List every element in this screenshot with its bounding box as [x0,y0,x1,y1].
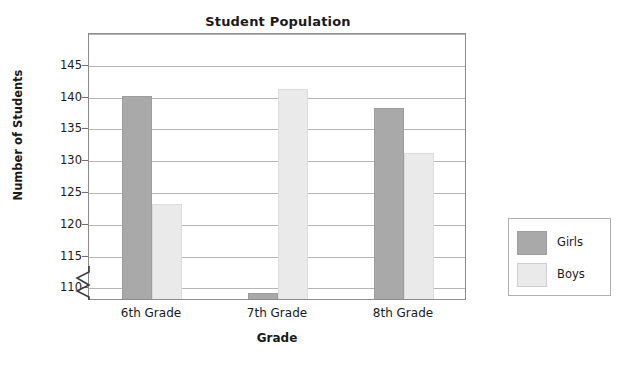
legend-item-girls[interactable]: Girls [517,229,609,257]
bar-boys-6th-grade [152,204,182,299]
gridline [89,66,465,67]
gridline [89,34,465,35]
y-axis-tick-label: 130 [48,154,82,166]
y-axis-tick-label: 115 [48,250,82,262]
y-axis-tick-mark [82,224,88,225]
bar-chart: Student Population 110115120125130135140… [0,0,632,365]
plot-area [88,33,466,300]
y-axis-tick-mark [82,256,88,257]
y-axis-tick-label: 125 [48,186,82,198]
legend-item-boys[interactable]: Boys [517,261,609,289]
bar-girls-6th-grade [122,96,152,299]
y-axis-tick-mark [82,192,88,193]
y-axis-tick-label: 135 [48,122,82,134]
legend-label-girls: Girls [557,235,583,249]
legend: GirlsBoys [508,218,611,296]
legend-label-boys: Boys [557,267,585,281]
y-axis-tick-label: 120 [48,218,82,230]
bar-boys-8th-grade [404,153,434,299]
y-axis-tick-mark [82,97,88,98]
x-axis-tick-label: 8th Grade [343,306,463,320]
x-axis-tick-label: 6th Grade [91,306,211,320]
bar-girls-8th-grade [374,108,404,299]
y-axis-title: Number of Students [11,55,25,215]
chart-title: Student Population [88,14,468,29]
y-axis-tick-mark [82,128,88,129]
y-axis-tick-labels: 110115120125130135140145 [44,33,82,300]
axis-break-icon [72,266,94,300]
y-axis-tick-mark [82,160,88,161]
x-axis-tick-label: 7th Grade [217,306,337,320]
y-axis-tick-label: 145 [48,59,82,71]
y-axis-tick-label: 140 [48,91,82,103]
legend-swatch-girls [517,231,547,255]
x-axis-title: Grade [88,331,466,345]
legend-swatch-boys [517,263,547,287]
y-axis-tick-mark [82,65,88,66]
bar-girls-7th-grade [248,293,278,299]
bar-boys-7th-grade [278,89,308,299]
